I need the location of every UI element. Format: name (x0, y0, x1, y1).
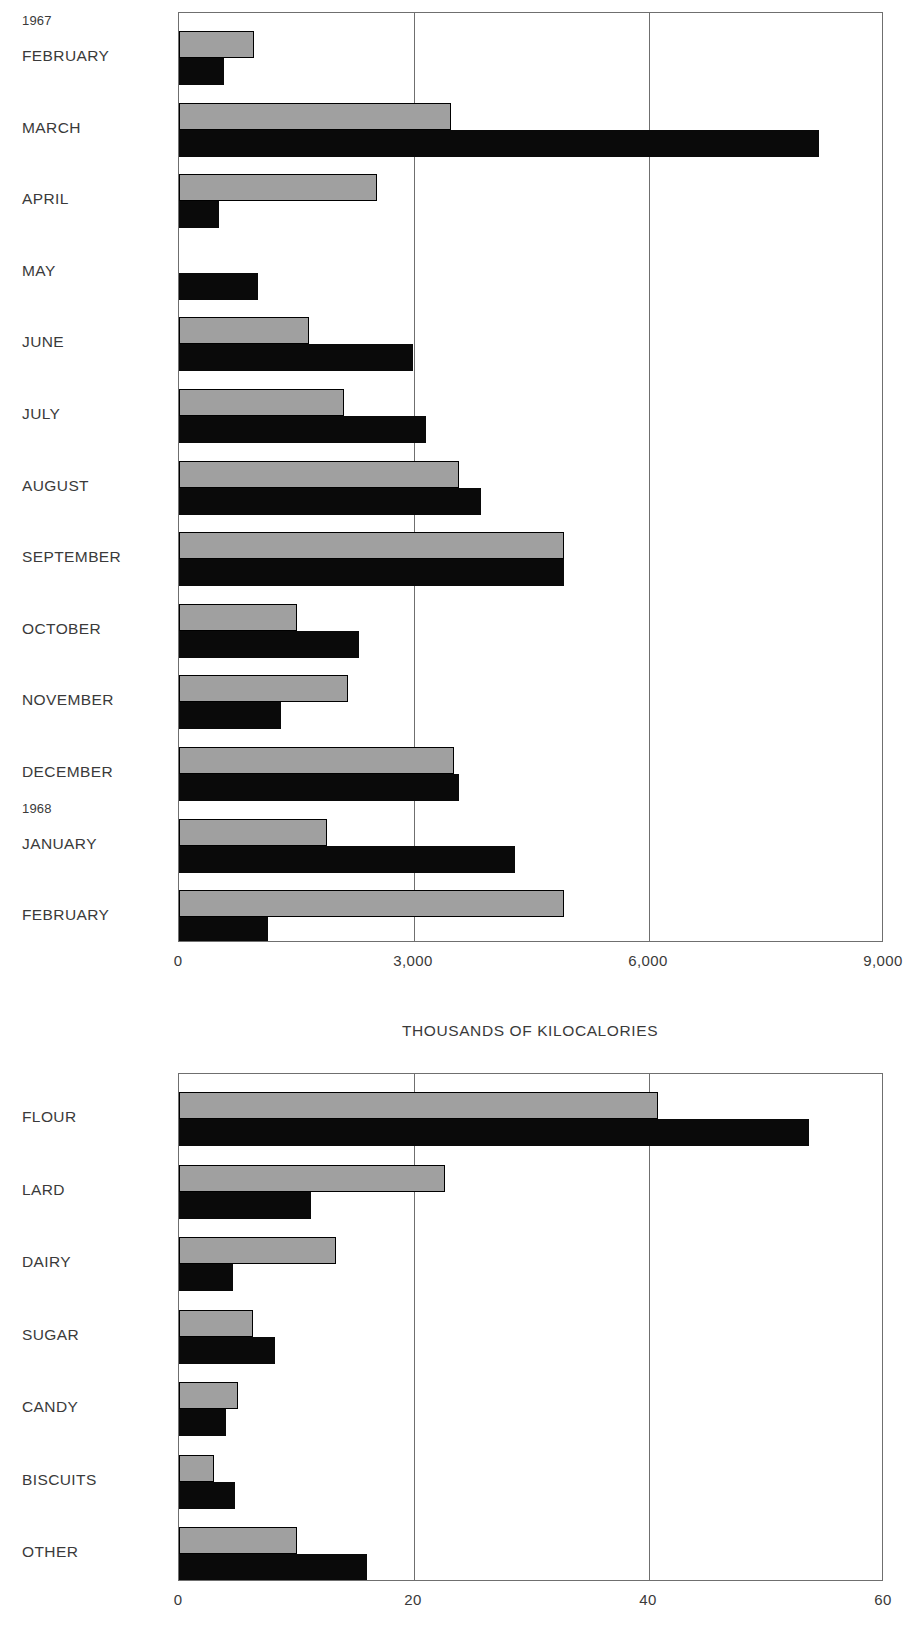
bar-gray (179, 1237, 336, 1264)
category-label: DECEMBER (0, 763, 166, 781)
category-label: FEBRUARY (0, 47, 166, 65)
bar-gray (179, 317, 309, 344)
category-label: CANDY (0, 1398, 166, 1416)
bar-black (179, 1264, 233, 1291)
bar-black (179, 1409, 226, 1436)
x-tick-label: 20 (404, 1591, 422, 1608)
year-label: 1967 (22, 13, 52, 28)
category-label: SUGAR (0, 1326, 166, 1344)
bar-black (179, 559, 564, 586)
bar-black (179, 201, 219, 228)
bar-gray (179, 819, 327, 846)
bar-gray (179, 1455, 214, 1482)
bar-black (179, 488, 481, 515)
x-tick-label: 0 (174, 952, 183, 969)
x-axis-title-chart1: THOUSANDS OF KILOCALORIES (402, 1022, 658, 1040)
bar-black (179, 273, 258, 300)
category-label: JUNE (0, 333, 166, 351)
bar-black (179, 344, 413, 371)
category-label: BISCUITS (0, 1471, 166, 1489)
bar-black (179, 774, 459, 801)
gridline (649, 1074, 650, 1580)
bar-black (179, 130, 819, 157)
category-label: DAIRY (0, 1253, 166, 1271)
bar-gray (179, 747, 454, 774)
bar-black (179, 846, 515, 873)
bar-black (179, 1554, 367, 1581)
bar-gray (179, 1527, 297, 1554)
bar-black (179, 58, 224, 85)
gridline (414, 1074, 415, 1580)
bar-gray (179, 389, 344, 416)
chart-page: FEBRUARYMARCHAPRILMAYJUNEJULYAUGUSTSEPTE… (0, 0, 917, 1650)
bar-gray (179, 1165, 445, 1192)
bar-black (179, 702, 281, 729)
bar-black (179, 631, 359, 658)
x-tick-label: 60 (874, 1591, 892, 1608)
x-tick-label: 3,000 (393, 952, 433, 969)
plot-area-chart2 (178, 1073, 883, 1581)
chart-calorie-source-percent: FLOURLARDDAIRYSUGARCANDYBISCUITSOTHER 02… (0, 1073, 917, 1650)
x-tick-label: 0 (174, 1591, 183, 1608)
category-label: MAY (0, 262, 166, 280)
bar-gray (179, 461, 459, 488)
bar-black (179, 1337, 275, 1364)
chart-monthly-kilocalories: FEBRUARYMARCHAPRILMAYJUNEJULYAUGUSTSEPTE… (0, 0, 917, 1010)
bar-black (179, 416, 426, 443)
bar-gray (179, 532, 564, 559)
bar-gray (179, 31, 254, 58)
bar-gray (179, 1092, 658, 1119)
bar-gray (179, 1310, 253, 1337)
x-tick-label: 9,000 (863, 952, 903, 969)
bar-black (179, 1192, 311, 1219)
category-label: LARD (0, 1181, 166, 1199)
year-label: 1968 (22, 801, 52, 816)
category-label: OCTOBER (0, 620, 166, 638)
category-label: NOVEMBER (0, 691, 166, 709)
bar-gray (179, 103, 451, 130)
x-tick-label: 40 (639, 1591, 657, 1608)
bar-black (179, 917, 268, 942)
bar-black (179, 1119, 809, 1146)
category-label: SEPTEMBER (0, 548, 166, 566)
bar-gray (179, 675, 348, 702)
category-label: AUGUST (0, 477, 166, 495)
bar-gray (179, 1382, 238, 1409)
plot-area-chart1 (178, 12, 883, 942)
bar-gray (179, 890, 564, 917)
category-label: APRIL (0, 190, 166, 208)
category-label: FEBRUARY (0, 906, 166, 924)
bar-gray (179, 604, 297, 631)
category-label: OTHER (0, 1543, 166, 1561)
category-label: FLOUR (0, 1108, 166, 1126)
category-label: JULY (0, 405, 166, 423)
bar-gray (179, 174, 377, 201)
category-label: MARCH (0, 119, 166, 137)
category-label: JANUARY (0, 835, 166, 853)
x-tick-label: 6,000 (628, 952, 668, 969)
bar-black (179, 1482, 235, 1509)
